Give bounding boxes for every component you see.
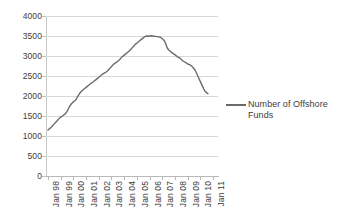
x-tick-mark <box>124 177 125 180</box>
x-axis-labels: Jan 98Jan 99Jan 00Jan 01Jan 02Jan 03Jan … <box>46 176 219 221</box>
x-tick-label: Jan 07 <box>166 181 175 207</box>
series-line-number-of-offshore-funds <box>46 16 218 176</box>
x-tick-mark <box>162 177 163 180</box>
y-tick-label: 2500 <box>2 72 42 81</box>
x-tick-mark <box>188 177 189 180</box>
x-tick-mark <box>200 177 201 180</box>
x-tick-label: Jan 08 <box>179 181 188 207</box>
x-tick-mark <box>175 177 176 180</box>
x-tick-label: Jan 99 <box>65 181 74 207</box>
x-tick-mark <box>86 177 87 180</box>
x-tick-label: Jan 02 <box>103 181 112 207</box>
legend-line-swatch <box>226 104 246 106</box>
x-tick-mark <box>99 177 100 180</box>
x-tick-mark <box>213 177 214 180</box>
x-tick-label: Jan 11 <box>217 181 226 207</box>
y-tick-label: 3000 <box>2 52 42 61</box>
x-tick-label: Jan 10 <box>204 181 213 207</box>
x-tick-label: Jan 01 <box>90 181 99 207</box>
x-tick-label: Jan 06 <box>154 181 163 207</box>
x-tick-label: Jan 09 <box>192 181 201 207</box>
x-tick-mark <box>73 177 74 180</box>
x-tick-label: Jan 98 <box>52 181 61 207</box>
x-tick-mark <box>111 177 112 180</box>
legend-label: Number of Offshore Funds <box>248 99 336 121</box>
x-tick-mark <box>150 177 151 180</box>
chart-legend: Number of Offshore Funds <box>226 99 340 121</box>
y-tick-label: 0 <box>2 172 42 181</box>
y-tick-label: 3500 <box>2 32 42 41</box>
x-tick-label: Jan 04 <box>128 181 137 207</box>
x-tick-mark <box>61 177 62 180</box>
y-tick-label: 1500 <box>2 112 42 121</box>
x-tick-mark <box>48 177 49 180</box>
y-tick-label: 4000 <box>2 12 42 21</box>
x-tick-label: Jan 05 <box>141 181 150 207</box>
y-tick-label: 1000 <box>2 132 42 141</box>
x-tick-label: Jan 00 <box>77 181 86 207</box>
line-chart: 05001000150020002500300035004000 Jan 98J… <box>0 0 342 221</box>
x-tick-mark <box>137 177 138 180</box>
x-tick-label: Jan 03 <box>115 181 124 207</box>
y-tick-label: 500 <box>2 152 42 161</box>
y-axis-labels: 05001000150020002500300035004000 <box>0 0 42 221</box>
plot-area <box>46 16 218 176</box>
y-tick-label: 2000 <box>2 92 42 101</box>
